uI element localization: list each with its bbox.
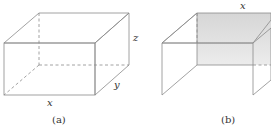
- label-x-a: x: [47, 97, 53, 108]
- box-a-right-face: [95, 13, 129, 95]
- box-a-top-face: [4, 13, 129, 43]
- box-a-front-face: [4, 43, 95, 95]
- box-b-left-wall: [162, 13, 197, 95]
- label-y-a: y: [113, 79, 120, 90]
- label-z-a: z: [132, 32, 139, 43]
- box-a-hidden-left-bottom-edge: [4, 65, 39, 95]
- caption-a: (a): [52, 114, 66, 125]
- diagram-canvas: x y z (a) x (b): [0, 0, 271, 130]
- label-x-b: x: [240, 0, 246, 11]
- panel-a-closed-box: x y z (a): [4, 13, 139, 125]
- caption-b: (b): [221, 114, 235, 125]
- panel-b-open-box: x (b): [162, 0, 271, 125]
- box-b-back-wall: [197, 13, 271, 65]
